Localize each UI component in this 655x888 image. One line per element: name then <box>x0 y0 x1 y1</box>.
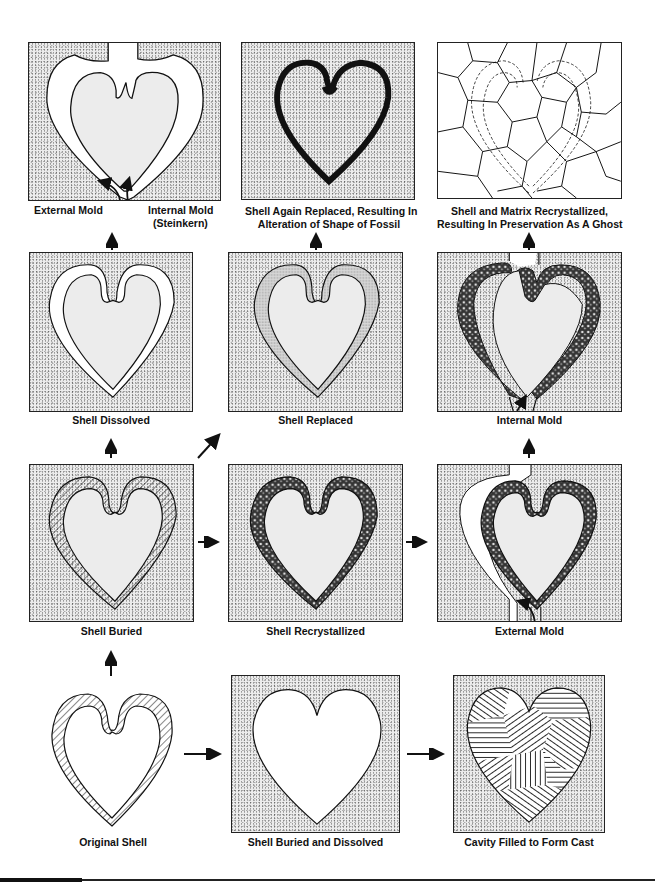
label-shell-buried: Shell Buried <box>29 625 194 638</box>
label-matrix-recrystallized-1: Shell and Matrix Recrystallized, <box>437 205 622 218</box>
label-external-mold-panel: External Mold <box>437 625 622 638</box>
panel-shell-recrystallized <box>228 464 403 622</box>
bottom-rule-accent <box>0 878 82 882</box>
label-steinkern: (Steinkern) <box>153 217 208 230</box>
panel-external-internal-mold <box>28 42 221 201</box>
heart-original-illustration <box>48 688 178 830</box>
heart-recrystallized-illustration <box>229 465 402 621</box>
panel-shell-again-replaced <box>241 42 415 200</box>
panel-shell-dissolved <box>29 252 193 412</box>
arrow-diagonal-icon <box>196 428 224 460</box>
heart-replaced-illustration <box>229 253 402 411</box>
panel-shell-buried-dissolved <box>231 675 400 833</box>
panel-cavity-filled-cast <box>453 675 605 833</box>
arrow-up-icon <box>106 228 118 250</box>
external-mold-illustration <box>438 465 621 621</box>
arrow-up-icon <box>105 434 117 458</box>
label-shell-again-replaced-1: Shell Again Replaced, Resulting In <box>245 205 413 218</box>
arrow-right-icon <box>184 748 226 760</box>
label-internal-mold-panel: Internal Mold <box>437 414 622 427</box>
arrow-up-icon <box>310 228 322 250</box>
label-shell-dissolved: Shell Dissolved <box>29 414 193 427</box>
label-internal-mold: Internal Mold <box>148 204 213 217</box>
panel-original-shell <box>48 688 178 830</box>
arrow-up-icon <box>523 228 535 250</box>
arrow-up-icon <box>105 646 117 676</box>
arrow-up-icon <box>523 434 535 458</box>
panel-internal-mold <box>437 252 622 412</box>
panel-external-mold <box>437 464 622 622</box>
heart-altered-illustration <box>242 43 414 199</box>
arrow-right-icon <box>407 748 449 760</box>
internal-mold-illustration <box>438 253 621 411</box>
label-external-mold: External Mold <box>34 204 103 217</box>
label-original-shell: Original Shell <box>48 836 178 849</box>
label-shell-replaced: Shell Replaced <box>228 414 403 427</box>
bottom-rule <box>0 879 655 881</box>
label-shell-buried-dissolved: Shell Buried and Dissolved <box>231 836 400 849</box>
panel-shell-buried <box>29 464 194 622</box>
heart-cast-illustration <box>454 676 604 832</box>
label-shell-recrystallized: Shell Recrystallized <box>228 625 403 638</box>
heart-cavity-illustration <box>232 676 399 832</box>
ghost-heart-illustration <box>438 43 621 198</box>
heart-buried-illustration <box>30 465 193 621</box>
arrow-right-icon <box>406 536 432 548</box>
label-shell-again-replaced-2: Alteration of Shape of Fossil <box>245 218 413 231</box>
label-cavity-filled-cast: Cavity Filled to Form Cast <box>440 836 618 849</box>
heart-mold-illustration <box>29 43 220 200</box>
arrow-right-icon <box>198 536 224 548</box>
panel-matrix-recrystallized <box>437 42 622 199</box>
heart-hollow-illustration <box>30 253 192 411</box>
panel-shell-replaced <box>228 252 403 412</box>
